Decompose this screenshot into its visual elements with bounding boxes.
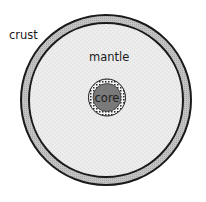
- core-label: core: [95, 91, 120, 105]
- earth-layers-diagram: crust mantle core: [0, 0, 206, 202]
- mantle-label: mantle: [89, 50, 129, 64]
- crust-label: crust: [9, 28, 38, 42]
